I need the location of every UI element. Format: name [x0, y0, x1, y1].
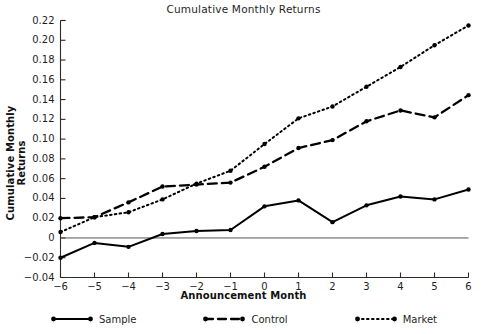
- data-point-control: [398, 108, 402, 112]
- data-point-sample: [126, 245, 130, 249]
- x-tick-label: 6: [458, 282, 480, 292]
- y-tick-label: 0.22: [13, 16, 55, 26]
- chart-legend: SampleControlMarket: [0, 307, 487, 331]
- x-tick-label: −6: [50, 282, 72, 292]
- data-point-sample: [330, 220, 334, 224]
- data-point-control: [58, 216, 62, 220]
- data-point-market: [228, 169, 232, 173]
- legend-item-sample[interactable]: Sample: [50, 313, 137, 325]
- data-point-control: [364, 119, 368, 123]
- series-line-market: [61, 25, 469, 232]
- data-point-sample: [364, 203, 368, 207]
- plot-area: [0, 0, 487, 334]
- legend-swatch-market: [354, 313, 398, 325]
- y-tick-label: 0.18: [13, 55, 55, 65]
- data-point-market: [92, 215, 96, 219]
- y-tick-label: 0.08: [13, 154, 55, 164]
- x-tick-label: 5: [424, 282, 446, 292]
- x-tick-label: 1: [288, 282, 310, 292]
- data-point-market: [330, 104, 334, 108]
- legend-label: Sample: [99, 314, 137, 325]
- x-tick-label: 3: [356, 282, 378, 292]
- data-point-sample: [228, 228, 232, 232]
- data-point-control: [126, 200, 130, 204]
- data-point-market: [126, 210, 130, 214]
- y-tick-label: 0.16: [13, 75, 55, 85]
- data-point-control: [296, 146, 300, 150]
- data-point-control: [160, 184, 164, 188]
- y-tick-label: 0.20: [13, 35, 55, 45]
- y-tick-label: 0: [13, 233, 55, 243]
- series-line-control: [61, 95, 469, 218]
- x-tick-label: 4: [390, 282, 412, 292]
- data-point-control: [228, 180, 232, 184]
- data-point-market: [194, 181, 198, 185]
- data-point-market: [58, 230, 62, 234]
- data-point-market: [432, 43, 436, 47]
- data-point-market: [364, 85, 368, 89]
- x-tick-label: 2: [322, 282, 344, 292]
- y-tick-label: −0.04: [13, 273, 55, 283]
- y-tick-label: 0.02: [13, 213, 55, 223]
- legend-item-control[interactable]: Control: [202, 313, 287, 325]
- data-point-control: [466, 93, 470, 97]
- chart-container: Cumulative Monthly Returns Cumulative Mo…: [0, 0, 487, 334]
- data-point-sample: [432, 197, 436, 201]
- data-point-sample: [160, 232, 164, 236]
- y-tick-label: −0.02: [13, 253, 55, 263]
- legend-swatch-control: [202, 313, 246, 325]
- legend-swatch-sample: [50, 313, 94, 325]
- x-tick-label: −1: [220, 282, 242, 292]
- data-point-market: [262, 142, 266, 146]
- data-point-sample: [92, 241, 96, 245]
- data-point-sample: [58, 256, 62, 260]
- series-line-sample: [61, 190, 469, 258]
- data-point-sample: [262, 204, 266, 208]
- data-point-market: [466, 23, 470, 27]
- data-point-market: [398, 65, 402, 69]
- legend-item-market[interactable]: Market: [354, 313, 437, 325]
- data-point-sample: [466, 187, 470, 191]
- data-point-sample: [194, 229, 198, 233]
- legend-label: Market: [403, 314, 437, 325]
- y-tick-label: 0.04: [13, 193, 55, 203]
- legend-label: Control: [251, 314, 287, 325]
- data-point-market: [160, 197, 164, 201]
- data-point-sample: [296, 198, 300, 202]
- data-point-control: [330, 138, 334, 142]
- data-point-control: [262, 165, 266, 169]
- y-tick-label: 0.06: [13, 174, 55, 184]
- x-tick-label: −3: [152, 282, 174, 292]
- y-tick-label: 0.14: [13, 95, 55, 105]
- y-tick-label: 0.10: [13, 134, 55, 144]
- data-point-market: [296, 116, 300, 120]
- y-tick-label: 0.12: [13, 114, 55, 124]
- x-tick-label: 0: [254, 282, 276, 292]
- x-tick-label: −2: [186, 282, 208, 292]
- x-tick-label: −5: [84, 282, 106, 292]
- data-point-sample: [398, 194, 402, 198]
- x-tick-label: −4: [118, 282, 140, 292]
- data-point-control: [432, 115, 436, 119]
